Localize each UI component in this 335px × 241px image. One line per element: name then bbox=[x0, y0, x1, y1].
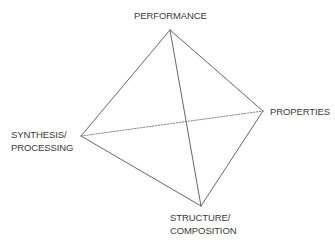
label-text: PROPERTIES bbox=[270, 105, 330, 118]
tetrahedron-graphic bbox=[0, 0, 335, 241]
edge-right-bottom bbox=[201, 111, 263, 206]
vertex-label-performance: PERFORMANCE bbox=[134, 9, 207, 22]
vertex-label-structure-composition: STRUCTURE/ COMPOSITION bbox=[170, 211, 236, 237]
vertex-label-synthesis-processing: SYNTHESIS/ PROCESSING bbox=[11, 128, 73, 154]
label-text: PERFORMANCE bbox=[134, 9, 207, 22]
edge-top-right bbox=[170, 30, 263, 111]
label-text-line-1: STRUCTURE/ bbox=[170, 211, 236, 224]
edge-top-left bbox=[81, 30, 170, 136]
edge-left-bottom bbox=[81, 136, 201, 206]
label-text-line-1: SYNTHESIS/ bbox=[11, 128, 73, 141]
edge-top-bottom bbox=[170, 30, 201, 206]
materials-tetrahedron-diagram: PERFORMANCE PROPERTIES SYNTHESIS/ PROCES… bbox=[0, 0, 335, 241]
label-text-line-2: PROCESSING bbox=[11, 141, 73, 154]
vertex-label-properties: PROPERTIES bbox=[270, 105, 330, 118]
edge-left-right-hidden bbox=[81, 111, 263, 136]
label-text-line-2: COMPOSITION bbox=[170, 224, 236, 237]
